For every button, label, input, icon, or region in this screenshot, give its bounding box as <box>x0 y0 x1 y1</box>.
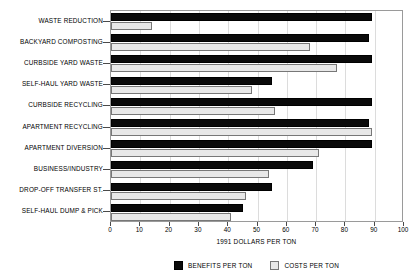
bar-costs <box>111 22 152 30</box>
bar-costs <box>111 149 319 157</box>
x-tick-label: 20 <box>165 226 172 233</box>
x-tick-label: 40 <box>224 226 231 233</box>
legend-swatch-benefits <box>174 261 183 270</box>
category-tick <box>103 105 110 106</box>
bar-chart: WASTE REDUCTIONBACKYARD COMPOSTINGCURBSI… <box>0 0 418 279</box>
x-tick-label: 50 <box>253 226 260 233</box>
bar-group <box>111 75 402 96</box>
plot-area <box>110 10 403 222</box>
category-tick <box>103 127 110 128</box>
bar-costs <box>111 107 275 115</box>
bar-group <box>111 138 402 159</box>
bar-costs <box>111 86 252 94</box>
x-tick-label: 60 <box>282 226 289 233</box>
bar-benefits <box>111 183 272 191</box>
bar-group <box>111 32 402 53</box>
bar-group <box>111 96 402 117</box>
bar-benefits <box>111 98 372 106</box>
category-tick <box>103 63 110 64</box>
category-label: CURBSIDE YARD WASTE <box>0 59 103 66</box>
x-axis: 0102030405060708090100 <box>110 222 403 227</box>
bar-costs <box>111 213 231 221</box>
category-tick <box>103 169 110 170</box>
category-tick <box>103 84 110 85</box>
bar-benefits <box>111 161 313 169</box>
x-tick-label: 100 <box>398 226 409 233</box>
bar-benefits <box>111 77 272 85</box>
category-label: DROP-OFF TRANSFER ST. <box>0 186 103 193</box>
category-tick <box>103 148 110 149</box>
chart-legend: BENEFITS PER TONCOSTS PER TON <box>110 258 403 272</box>
x-tick-label: 0 <box>108 226 112 233</box>
x-tick-label: 10 <box>136 226 143 233</box>
bar-benefits <box>111 13 372 21</box>
bar-group <box>111 11 402 32</box>
bar-group <box>111 202 402 223</box>
bar-benefits <box>111 34 369 42</box>
category-label: APARTMENT RECYCLING <box>0 123 103 130</box>
bar-group <box>111 117 402 138</box>
bar-benefits <box>111 140 372 148</box>
category-label: APARTMENT DIVERSION <box>0 144 103 151</box>
x-tick-label: 30 <box>194 226 201 233</box>
category-tick <box>103 21 110 22</box>
category-tick <box>103 42 110 43</box>
legend-label: COSTS PER TON <box>284 262 339 269</box>
bar-benefits <box>111 119 369 127</box>
bar-costs <box>111 192 246 200</box>
x-tick-label: 90 <box>370 226 377 233</box>
x-axis-title: 1991 DOLLARS PER TON <box>110 238 403 245</box>
bar-benefits <box>111 204 243 212</box>
bar-costs <box>111 43 310 51</box>
bar-group <box>111 53 402 74</box>
x-tick-label: 80 <box>341 226 348 233</box>
bar-benefits <box>111 55 372 63</box>
bar-group <box>111 181 402 202</box>
legend-item: COSTS PER TON <box>270 261 339 270</box>
legend-swatch-costs <box>270 261 279 270</box>
bar-costs <box>111 128 372 136</box>
category-label: CURBSIDE RECYCLING <box>0 101 103 108</box>
category-label: BUSINESS/INDUSTRY <box>0 165 103 172</box>
bar-costs <box>111 170 269 178</box>
category-label: SELF-HAUL YARD WASTE <box>0 80 103 87</box>
x-tick-label: 70 <box>312 226 319 233</box>
category-label: WASTE REDUCTION <box>0 17 103 24</box>
category-tick <box>103 211 110 212</box>
bar-group <box>111 159 402 180</box>
category-label: BACKYARD COMPOSTING <box>0 38 103 45</box>
category-axis: WASTE REDUCTIONBACKYARD COMPOSTINGCURBSI… <box>0 10 103 222</box>
bar-costs <box>111 64 337 72</box>
legend-item: BENEFITS PER TON <box>174 261 252 270</box>
category-label: SELF-HAUL DUMP & PICK <box>0 207 103 214</box>
legend-label: BENEFITS PER TON <box>188 262 252 269</box>
category-tick <box>103 190 110 191</box>
